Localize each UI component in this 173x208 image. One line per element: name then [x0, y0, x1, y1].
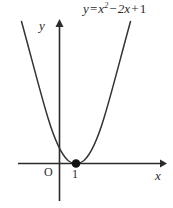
x-axis-label: x: [155, 169, 161, 182]
equation-lhs: y: [83, 1, 89, 16]
equation-constant: 1: [140, 1, 147, 16]
equation-label: y=x2−2x+1: [83, 2, 146, 15]
equation-plus-sign: +: [130, 1, 139, 16]
equation-minus-sign: −: [108, 1, 117, 16]
y-axis-arrowhead-icon: [56, 19, 64, 27]
origin-label: O: [44, 166, 53, 178]
equation-equals-sign: =: [89, 1, 98, 16]
plot-canvas: [0, 0, 173, 208]
x-axis-arrowhead-icon: [160, 160, 167, 168]
equation-term-2x: 2x: [118, 1, 130, 16]
y-axis-label: y: [39, 19, 45, 32]
parabola-figure: y=x2−2x+1 y x O 1: [0, 0, 173, 208]
x-tick-label-1: 1: [72, 168, 78, 180]
parabola-curve: [22, 22, 131, 164]
